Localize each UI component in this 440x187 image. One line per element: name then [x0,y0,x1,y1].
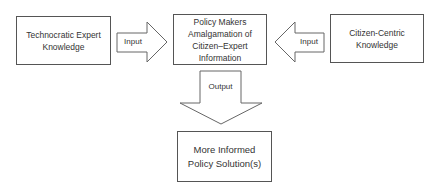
output-arrow-down [180,71,262,124]
policy-makers-label: Policy Makers Amalgamation of Citizen–Ex… [188,16,252,64]
policy-solution-box: More Informed Policy Solution(s) [177,131,272,182]
citizen-centric-knowledge-box: Citizen-Centric Knowledge [330,14,424,63]
policy-makers-box: Policy Makers Amalgamation of Citizen–Ex… [173,14,267,65]
policy-solution-label: More Informed Policy Solution(s) [188,143,261,171]
input-label-right: Input [294,37,324,46]
output-label: Output [200,82,241,91]
citizen-centric-knowledge-label: Citizen-Centric Knowledge [349,27,405,51]
technocratic-expert-knowledge-label: Technocratic Expert Knowledge [26,29,101,53]
technocratic-expert-knowledge-box: Technocratic Expert Knowledge [16,16,111,65]
input-label-left: Input [117,37,149,46]
